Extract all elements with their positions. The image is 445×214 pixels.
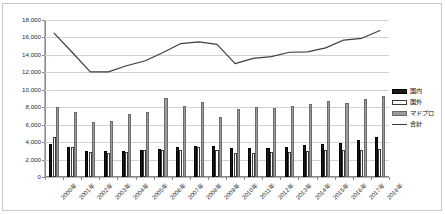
x-tick-mark (172, 177, 173, 180)
y-axis-tick-label: 2,000 (26, 156, 41, 162)
x-tick-mark (262, 177, 263, 180)
x-tick-mark (190, 177, 191, 180)
legend-item[interactable]: マドプロ (392, 108, 441, 119)
x-tick-mark (81, 177, 82, 180)
chart-legend: 国内国外マドプロ合計 (392, 86, 441, 130)
x-tick-mark (136, 177, 137, 180)
x-tick-mark (280, 177, 281, 180)
x-tick-mark (117, 177, 118, 180)
y-axis-tick-label: 18,000 (22, 17, 41, 23)
x-tick-mark (154, 177, 155, 180)
x-tick-mark (389, 177, 390, 180)
chart-container: 02,0004,0006,0008,00010,00012,00014,0001… (0, 0, 445, 214)
legend-swatch-foreign-icon (392, 100, 407, 105)
y-axis-tick-label: 8,000 (26, 104, 41, 110)
x-tick-mark (45, 177, 46, 180)
legend-item-label: マドプロ (410, 110, 434, 116)
y-axis-tick-label: 10,000 (22, 87, 41, 93)
x-tick-mark (317, 177, 318, 180)
y-axis-tick-label: 4,000 (26, 139, 41, 145)
x-tick-mark (226, 177, 227, 180)
total-line-series (45, 20, 389, 177)
legend-item[interactable]: 国内 (392, 86, 441, 97)
y-axis-tick-label: 16,000 (22, 34, 41, 40)
x-tick-mark (244, 177, 245, 180)
x-tick-mark (99, 177, 100, 180)
legend-item-label: 合計 (410, 121, 422, 127)
legend-item-label: 国内 (410, 88, 422, 94)
legend-swatch-total-icon (392, 122, 407, 127)
x-tick-mark (335, 177, 336, 180)
y-axis-tick-label: 12,000 (22, 69, 41, 75)
x-tick-mark (371, 177, 372, 180)
x-tick-mark (353, 177, 354, 180)
legend-swatch-domestic-icon (392, 89, 407, 94)
x-tick-mark (63, 177, 64, 180)
legend-item-label: 国外 (410, 99, 422, 105)
y-axis-tick-label: 14,000 (22, 52, 41, 58)
legend-item[interactable]: 合計 (392, 119, 441, 130)
x-tick-mark (298, 177, 299, 180)
y-axis-tick-label: 6,000 (26, 122, 41, 128)
legend-swatch-madpro-icon (392, 111, 407, 116)
x-tick-mark (208, 177, 209, 180)
plot-area: 02,0004,0006,0008,00010,00012,00014,0001… (44, 20, 389, 178)
y-axis-tick-label: 0 (38, 174, 41, 180)
legend-item[interactable]: 国外 (392, 97, 441, 108)
